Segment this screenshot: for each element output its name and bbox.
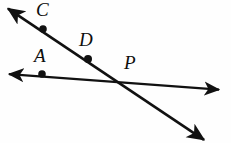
line-cdp	[8, 9, 204, 140]
point-d-dot	[84, 55, 92, 63]
point-c-dot	[39, 25, 47, 33]
point-label-p: P	[124, 53, 136, 72]
point-a-dot	[38, 70, 46, 78]
point-label-a: A	[34, 46, 46, 65]
point-label-c: C	[36, 0, 49, 19]
point-label-d: D	[79, 30, 93, 49]
geometry-diagram: C D A P	[0, 0, 231, 143]
geometry-canvas	[0, 0, 231, 143]
